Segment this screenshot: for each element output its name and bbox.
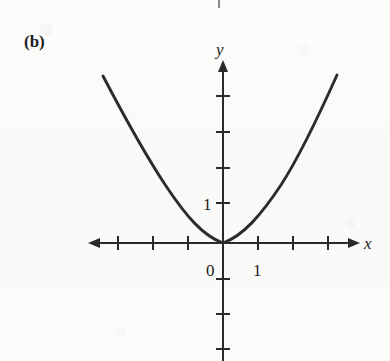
x-axis-left-arrow-icon [88, 238, 100, 248]
x-axis-label: x [363, 234, 372, 253]
y-axis-up-arrow-icon [218, 60, 228, 72]
figure-panel: (b) x [0, 0, 390, 361]
origin-tick-label: 0 [206, 261, 215, 280]
y-axis-label: y [214, 40, 224, 59]
x-axis-right-arrow-icon [348, 238, 360, 248]
parabola-plot: x y 0 1 1 [0, 0, 390, 361]
parabola-curve [103, 75, 337, 243]
x-axis: x [88, 234, 372, 253]
x-tick-label-1: 1 [253, 261, 262, 280]
y-axis: y [214, 40, 230, 361]
y-tick-label-1: 1 [203, 195, 212, 214]
